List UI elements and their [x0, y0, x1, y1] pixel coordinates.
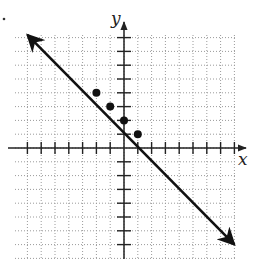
axes: [8, 22, 246, 259]
data-point: [120, 116, 128, 124]
data-point: [106, 103, 114, 111]
grid-lines: [15, 35, 236, 258]
line-y-equals-neg-x-plus-2: [27, 35, 234, 245]
data-points: [92, 89, 141, 138]
line-series: [27, 35, 234, 245]
data-point: [92, 89, 100, 97]
corner-dot-mark: [3, 18, 6, 21]
data-point: [134, 130, 142, 138]
y-axis-label: y: [110, 8, 121, 28]
coordinate-plane: y x: [0, 0, 257, 261]
x-axis-label: x: [238, 149, 248, 169]
